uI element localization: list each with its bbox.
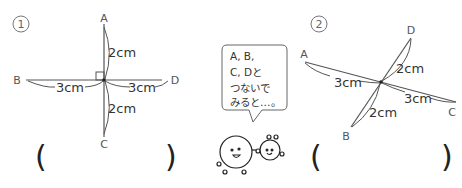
bubble-line-2: C, Dと <box>230 66 262 78</box>
measure-bottom: 2cm <box>108 101 136 116</box>
measure-left: 3cm <box>56 80 84 95</box>
measure-right-2: 3cm <box>404 91 432 106</box>
figure-2: 2 A B C D 2cm 3cm 3cm 2cm ( ) <box>300 16 456 174</box>
smiling-ball-characters-icon <box>217 135 284 174</box>
answer-open-paren-2: ( <box>310 139 322 174</box>
answer-field-1[interactable] <box>50 145 162 173</box>
measure-upper-2: 2cm <box>396 61 424 76</box>
point-d-label-2: D <box>407 24 415 37</box>
bubble-line-4: みると…。 <box>230 96 281 108</box>
figure-2-number: 2 <box>316 18 323 31</box>
point-d-label: D <box>171 74 179 87</box>
answer-close-paren-2: ) <box>441 139 453 174</box>
answer-field-2[interactable] <box>325 145 439 173</box>
bubble-line-1: A, B, <box>230 50 254 62</box>
diagram-canvas: 1 A B C D 2cm 3cm 3cm 2cm ( ) A, B, C, D… <box>0 0 462 188</box>
measure-lower-2: 2cm <box>369 105 397 120</box>
measure-left-2: 3cm <box>334 75 362 90</box>
point-b-label-2: B <box>342 130 350 143</box>
point-a-label-2: A <box>300 48 308 61</box>
measure-top: 2cm <box>108 45 136 60</box>
point-c-label-2: C <box>448 106 456 119</box>
answer-close-paren-1: ) <box>165 139 177 174</box>
point-b-label: B <box>13 74 21 87</box>
speech-bubble: A, B, C, Dと つないで みると…。 <box>222 45 287 122</box>
point-a-label: A <box>100 12 108 25</box>
measure-right: 3cm <box>128 80 156 95</box>
answer-open-paren-1: ( <box>35 139 47 174</box>
bubble-line-3: つないで <box>230 82 270 94</box>
figure-1: 1 A B C D 2cm 3cm 3cm 2cm ( ) <box>13 12 179 174</box>
figure-1-number: 1 <box>18 18 25 31</box>
